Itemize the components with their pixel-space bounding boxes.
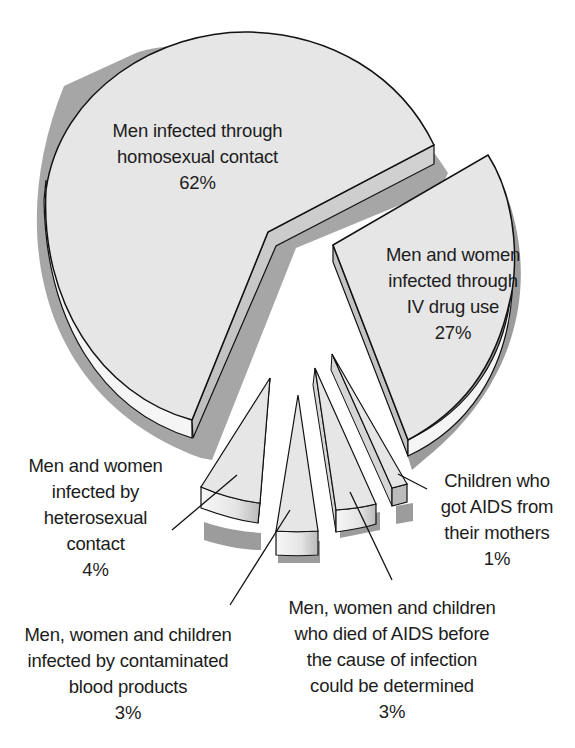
- label-blood: Men, women and children infected by cont…: [8, 622, 248, 726]
- label-iv-drug-line2: infected through: [378, 268, 528, 294]
- label-mothers: Children who got AIDS from their mothers…: [422, 468, 572, 572]
- label-iv-drug-line1: Men and women: [378, 242, 528, 268]
- label-heterosexual-pct: 4%: [18, 557, 173, 583]
- label-mothers-line2: got AIDS from: [422, 494, 572, 520]
- label-blood-pct: 3%: [8, 700, 248, 726]
- label-undetermined-line1: Men, women and children: [272, 595, 512, 621]
- label-homosexual-line2: homosexual contact: [95, 144, 300, 170]
- label-iv-drug-pct: 27%: [378, 320, 528, 346]
- label-heterosexual-line4: contact: [18, 531, 173, 557]
- label-homosexual-line1: Men infected through: [95, 118, 300, 144]
- label-homosexual-pct: 62%: [95, 170, 300, 196]
- label-undetermined-line4: could be determined: [272, 673, 512, 699]
- label-blood-line3: blood products: [8, 674, 248, 700]
- slice-blood: [276, 395, 320, 563]
- label-homosexual: Men infected through homosexual contact …: [95, 118, 300, 196]
- label-iv-drug: Men and women infected through IV drug u…: [378, 242, 528, 346]
- label-undetermined-line3: the cause of infection: [272, 647, 512, 673]
- label-undetermined-pct: 3%: [272, 699, 512, 725]
- label-heterosexual-line2: infected by: [18, 479, 173, 505]
- label-blood-line1: Men, women and children: [8, 622, 248, 648]
- label-heterosexual-line3: heterosexual: [18, 505, 173, 531]
- label-undetermined-line2: who died of AIDS before: [272, 621, 512, 647]
- label-heterosexual-line1: Men and women: [18, 453, 173, 479]
- label-mothers-line1: Children who: [422, 468, 572, 494]
- label-undetermined: Men, women and children who died of AIDS…: [272, 595, 512, 725]
- label-heterosexual: Men and women infected by heterosexual c…: [18, 453, 173, 583]
- label-mothers-line3: their mothers: [422, 520, 572, 546]
- label-mothers-pct: 1%: [422, 546, 572, 572]
- label-iv-drug-line3: IV drug use: [378, 294, 528, 320]
- label-blood-line2: infected by contaminated: [8, 648, 248, 674]
